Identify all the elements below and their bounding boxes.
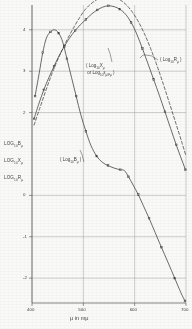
x-tick-label: 700	[181, 307, 188, 312]
y-axis-label-x: LOG10Xμ	[4, 158, 23, 165]
curve-Log10R	[34, 0, 186, 156]
y-tick-label: 4	[23, 27, 25, 32]
y-tick-label: -2	[23, 275, 27, 280]
x-axis-title: μ in mμ	[70, 315, 89, 321]
y-tick-label: 3	[23, 68, 25, 73]
annotation-x-curve: ( Log10Xμ or Log10εμ/Fμ )	[86, 63, 115, 78]
data-markers	[33, 5, 186, 302]
spectral-curves-chart	[0, 0, 192, 329]
y-axis-label-b: LOG10Bμ	[4, 141, 23, 148]
x-tick-label: 400	[27, 307, 34, 312]
x-tick-label: 500	[78, 307, 85, 312]
y-tick-label: 0	[23, 192, 25, 197]
data-curves	[34, 0, 186, 301]
y-tick-label: -1	[23, 234, 27, 239]
annotation-r-curve: ( Log10Rμ )	[160, 57, 182, 64]
y-axis-label-r: LOG10Rμ	[4, 175, 23, 182]
curve-Log10X	[34, 6, 185, 170]
y-tick-label: 2	[23, 110, 25, 115]
annotation-b-curve: ( Log10Bμ )	[60, 157, 81, 164]
x-tick-label: 600	[130, 307, 137, 312]
